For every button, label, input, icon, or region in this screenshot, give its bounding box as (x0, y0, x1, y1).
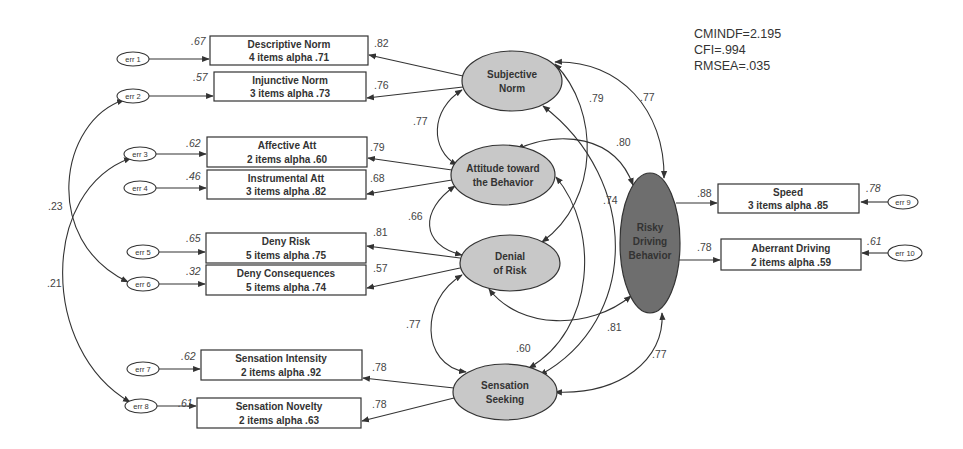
err-node-4: err 4 (124, 181, 156, 195)
svg-text:Behavior: Behavior (629, 250, 672, 261)
svg-text:Seeking: Seeking (486, 394, 524, 405)
r2-descriptive-norm: .67 (191, 35, 207, 47)
svg-text:Instrumental Att: Instrumental Att (248, 173, 325, 184)
err-node-6: err 6 (127, 277, 159, 291)
svg-text:Norm: Norm (499, 83, 525, 94)
svg-text:err 2: err 2 (125, 92, 140, 101)
svg-text:Sensation: Sensation (481, 380, 529, 391)
indicator-instrumental-att: Instrumental Att 3 items alpha .82 (207, 170, 366, 199)
cov-label-err3-err8: .21 (47, 277, 62, 289)
err3-err8-covariance-arc (63, 158, 131, 402)
fit-rmsea: RMSEA=.035 (694, 59, 770, 73)
corr-den-rdb: .81 (607, 321, 622, 333)
svg-text:err 8: err 8 (133, 402, 148, 411)
loading-deny-consequences: .57 (373, 262, 388, 274)
svg-text:err 9: err 9 (895, 198, 910, 207)
svg-text:5 items alpha .74: 5 items alpha .74 (246, 282, 326, 293)
loading-descriptive-norm: .82 (374, 37, 389, 49)
svg-text:Aberrant Driving: Aberrant Driving (752, 243, 831, 254)
loading-sensation-novelty: .78 (372, 398, 387, 410)
svg-text:2 items alpha .92: 2 items alpha .92 (241, 367, 321, 378)
r2-affective-att: .62 (186, 137, 201, 149)
indicator-sensation-intensity: Sensation Intensity 2 items alpha .92 (201, 350, 362, 380)
indicator-deny-consequences: Deny Consequences 5 items alpha .74 (206, 265, 366, 295)
svg-text:2 items alpha .63: 2 items alpha .63 (239, 415, 319, 426)
corr-den-ss: .77 (406, 318, 421, 330)
loading-speed: .88 (697, 187, 712, 199)
indicator-aberrant-driving: Aberrant Driving 2 items alpha .59 (721, 239, 861, 270)
latent-risky-driving-behavior: Risky Driving Behavior (620, 173, 680, 313)
cov-label-err2-err6: .23 (48, 200, 63, 212)
loading-affective-att: .79 (370, 141, 385, 153)
svg-text:the Behavior: the Behavior (473, 177, 534, 188)
svg-text:err 7: err 7 (135, 365, 150, 374)
indicator-descriptive-norm: Descriptive Norm 4 items alpha .71 (210, 36, 368, 65)
loading-injunctive-norm: .76 (374, 79, 389, 91)
corr-sn-rdb: .77 (640, 91, 655, 103)
err-node-1: err 1 (117, 52, 149, 66)
svg-text:Speed: Speed (773, 187, 803, 198)
indicator-sensation-novelty: Sensation Novelty 2 items alpha .63 (197, 398, 361, 428)
latent-subjective-norm: Subjective Norm (462, 51, 562, 111)
svg-text:err 1: err 1 (125, 55, 140, 64)
r2-deny-risk: .65 (186, 232, 201, 244)
fit-indices: CMINDF=2.195 CFI=.994 RMSEA=.035 (694, 27, 781, 73)
svg-text:err 6: err 6 (135, 280, 150, 289)
corr-sn-ss: .74 (603, 194, 618, 206)
svg-text:Denial: Denial (495, 251, 525, 262)
err-node-10: err 10 (888, 245, 922, 261)
svg-text:2 items alpha .59: 2 items alpha .59 (751, 257, 831, 268)
r2-instrumental-att: .46 (186, 170, 201, 182)
loading-instrumental-att: .68 (370, 172, 385, 184)
corr-ss-rdb: .77 (652, 348, 667, 360)
loading-deny-risk: .81 (373, 226, 388, 238)
svg-text:err 4: err 4 (132, 184, 147, 193)
svg-text:err 10: err 10 (895, 249, 915, 258)
svg-text:Affective Att: Affective Att (258, 140, 317, 151)
latent-sensation-seeking: Sensation Seeking (453, 364, 557, 420)
loading-aberrant-driving: .78 (697, 241, 712, 253)
corr-sn-att: .77 (413, 115, 428, 127)
err2-err6-covariance-arc (69, 100, 128, 282)
svg-text:err 5: err 5 (135, 248, 150, 257)
svg-text:Deny Risk: Deny Risk (262, 236, 311, 247)
indicator-deny-risk: Deny Risk 5 items alpha .75 (206, 233, 366, 263)
err-node-9: err 9 (888, 195, 918, 209)
corr-att-rdb: .80 (616, 136, 631, 148)
fit-cmindf: CMINDF=2.195 (694, 27, 781, 41)
corr-att-den: .66 (408, 210, 423, 222)
svg-text:Driving: Driving (633, 236, 667, 247)
svg-text:Descriptive Norm: Descriptive Norm (248, 39, 331, 50)
svg-text:5 items alpha .75: 5 items alpha .75 (246, 250, 326, 261)
corr-sn-den: .79 (589, 92, 604, 104)
svg-text:err 3: err 3 (132, 150, 147, 159)
svg-text:Attitude toward: Attitude toward (466, 163, 539, 174)
svg-text:4 items alpha .71: 4 items alpha .71 (249, 52, 329, 63)
svg-text:3 items alpha .73: 3 items alpha .73 (250, 88, 330, 99)
svg-text:2 items alpha .60: 2 items alpha .60 (247, 154, 327, 165)
indicator-injunctive-norm: Injunctive Norm 3 items alpha .73 (214, 72, 366, 101)
r2-aberrant-driving: .61 (867, 235, 882, 247)
svg-text:Subjective: Subjective (487, 69, 537, 80)
svg-text:Sensation Intensity: Sensation Intensity (235, 353, 327, 364)
err-node-3: err 3 (124, 147, 156, 161)
svg-text:Risky: Risky (637, 222, 664, 233)
err-node-2: err 2 (117, 89, 149, 103)
loading-sensation-intensity: .78 (372, 361, 387, 373)
r2-sensation-intensity: .62 (181, 350, 196, 362)
r2-sensation-novelty: .61 (178, 397, 193, 409)
r2-speed: .78 (866, 182, 881, 194)
indicator-speed: Speed 3 items alpha .85 (718, 184, 859, 213)
indicator-affective-att: Affective Att 2 items alpha .60 (207, 137, 367, 167)
err-node-8: err 8 (125, 399, 157, 413)
latent-attitude-toward-behavior: Attitude toward the Behavior (451, 145, 555, 205)
r2-injunctive-norm: .57 (193, 71, 209, 83)
sem-diagram: .23 .21 .77 .66 .77 .79 .77 .80 .74 .60 (0, 0, 963, 449)
svg-text:Sensation Novelty: Sensation Novelty (236, 401, 323, 412)
err-node-7: err 7 (127, 362, 159, 376)
svg-text:3 items alpha .85: 3 items alpha .85 (748, 200, 828, 211)
svg-text:3 items alpha .82: 3 items alpha .82 (246, 186, 326, 197)
r2-deny-consequences: .32 (186, 265, 201, 277)
svg-text:Injunctive Norm: Injunctive Norm (252, 75, 328, 86)
err-node-5: err 5 (127, 245, 159, 259)
